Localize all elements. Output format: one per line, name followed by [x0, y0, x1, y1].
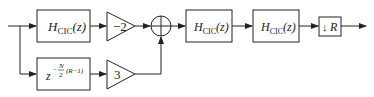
delay-base-label: z [45, 69, 51, 83]
gain-bottom-to-sum-arrow [135, 37, 161, 74]
block-diagram: HCIC(z) −2 z − N 2 (R−1) 3 HCIC(z) HCIC(… [0, 0, 374, 97]
delay-frac-num: N [58, 62, 64, 70]
gain-bottom-label: 3 [114, 67, 121, 82]
cic2-label: HCIC(z) [193, 20, 229, 36]
decimator-factor-label: R [329, 20, 338, 34]
branch-arrow [20, 26, 36, 74]
decimator-arrow-icon: ↓ [322, 21, 328, 33]
cic1-label: HCIC(z) [47, 19, 86, 36]
cic3-label: HCIC(z) [260, 20, 296, 36]
delay-frac-den: 2 [59, 71, 63, 79]
delay-exp-tail: (R−1) [66, 67, 84, 75]
delay-exp-sign: − [53, 66, 57, 74]
gain-bottom-triangle [107, 60, 135, 89]
gain-top-label: −2 [113, 19, 127, 34]
